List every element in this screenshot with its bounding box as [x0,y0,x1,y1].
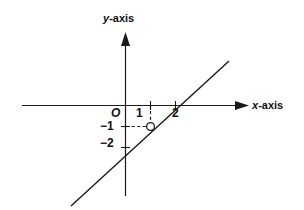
y-tick-label-minus-1: −1 [100,119,114,133]
y-axis-label: y-axis [103,12,134,24]
y-tick-label-minus-2: −2 [100,136,114,150]
x-axis-label-suffix: -axis [258,99,283,111]
y-axis [121,32,130,196]
x-tick-label-2: 2 [172,106,179,120]
x-axis-arrowhead-icon [235,101,249,110]
x-tick-label-1: 1 [136,106,143,120]
x-axis-label: x-axis [252,99,283,111]
graph-figure: y-axis x-axis O 1 2 −1 −2 [0,0,304,210]
origin-label: O [111,106,120,120]
plotted-line-y-equals-x-minus-2 [71,61,229,206]
y-axis-label-suffix: -axis [109,12,134,24]
open-point-marker [147,123,155,131]
y-axis-arrowhead-icon [121,32,130,46]
